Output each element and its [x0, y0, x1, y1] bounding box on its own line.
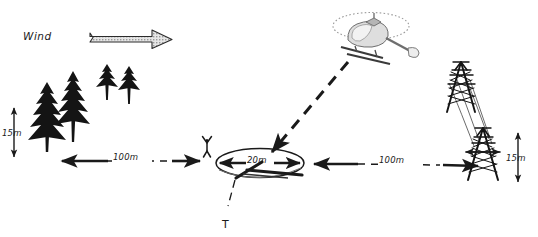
- diagram-canvas: 15m 100m 20m: [0, 0, 538, 237]
- dimension-pylon-height: 15m: [506, 133, 526, 182]
- transmission-pylon-icon: [466, 128, 500, 180]
- marshaller-figure-icon: [203, 137, 212, 158]
- conifer-tree-group-icon: [28, 64, 140, 152]
- approach-path-line: [272, 62, 348, 152]
- conifer-tree-icon: [118, 66, 140, 104]
- dimension-label-right-clearance: 100m: [379, 155, 404, 165]
- conifer-tree-icon: [56, 71, 90, 142]
- dimension-tree-height: 15m: [2, 108, 22, 157]
- conifer-tree-icon: [96, 64, 118, 100]
- conifer-tree-icon: [28, 82, 66, 152]
- dimension-left-clearance: 100m: [62, 152, 200, 168]
- dimension-right-clearance: 100m: [314, 155, 478, 170]
- dimension-label-tree-height: 15m: [2, 128, 22, 138]
- wind-arrow-icon: [90, 30, 172, 49]
- t-marker-leader: [228, 180, 235, 206]
- landing-zone-scene: 15m 100m 20m: [0, 0, 538, 237]
- dimension-landing-zone-diameter: 20m: [220, 155, 300, 168]
- helicopter-icon: [333, 13, 419, 65]
- transmission-pylon-icon: [447, 62, 475, 112]
- dimension-label-pylon-height: 15m: [506, 153, 526, 163]
- dimension-label-landing-zone-diameter: 20m: [247, 155, 267, 165]
- t-marker-label: T: [221, 218, 229, 231]
- dimension-label-left-clearance: 100m: [113, 152, 138, 162]
- wind-label: Wind: [23, 30, 52, 42]
